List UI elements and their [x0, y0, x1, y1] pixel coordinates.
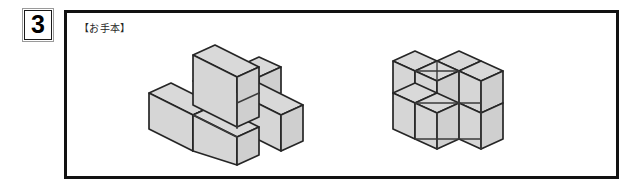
stacked-block-cube-figure: [383, 33, 523, 163]
question-number-box-inner: 3: [24, 10, 52, 40]
plus-shaped-cube-figure-svg: [147, 31, 317, 166]
question-number-box: 3: [22, 8, 54, 42]
cube-face-right: [237, 67, 259, 127]
example-panel-label: 【お手本】: [79, 20, 131, 35]
question-number-label: 3: [31, 12, 45, 37]
stacked-block-cube-figure-svg: [383, 33, 523, 163]
plus-shaped-cube-figure: [147, 31, 317, 166]
example-panel: 【お手本】: [64, 10, 619, 179]
worksheet-canvas: 3 【お手本】: [0, 0, 639, 191]
